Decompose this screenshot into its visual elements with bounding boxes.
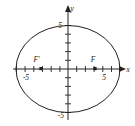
focus-right-point [93,67,96,70]
ellipse-figure: F' F x y -5 5 5 -5 [0,0,135,126]
focus-left-point [39,67,42,70]
x-axis-arrow-icon [119,66,126,72]
y-axis-tick-label-positive-five: 5 [58,21,62,30]
x-axis-tick-label-negative-five: -5 [23,73,29,82]
coordinate-plane-graph: F' F x y -5 5 5 -5 [0,0,135,126]
x-axis-tick-label-positive-five: 5 [102,73,106,82]
focus-left-label: F' [32,55,40,64]
focus-right-label: F [90,55,96,64]
y-axis-label: y [69,4,74,13]
y-axis-tick-label-negative-five: -5 [58,111,64,120]
x-axis-label: x [125,65,130,74]
